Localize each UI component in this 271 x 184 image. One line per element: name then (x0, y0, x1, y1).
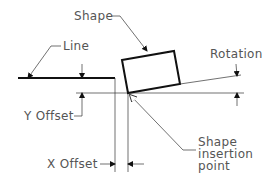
rotation-arrow-top (236, 64, 237, 76)
y-offset-leader (74, 93, 82, 116)
diagram-canvas: Shape Line Y Offset Rotation Shape inser… (0, 0, 271, 184)
shape-leader (111, 16, 147, 51)
y-offset-label: Y Offset (23, 109, 74, 123)
shape-rectangle (122, 51, 180, 93)
insertion-point-leader (130, 95, 196, 150)
line-leader (28, 46, 61, 78)
shape-label: Shape (74, 9, 113, 23)
x-offset-label: X Offset (47, 157, 98, 171)
rotation-label: Rotation (210, 47, 263, 61)
line-label: Line (63, 39, 89, 53)
insertion-label-line3: point (198, 159, 230, 173)
rotation-line (180, 75, 241, 84)
shape-insertion-diagram: Shape Line Y Offset Rotation Shape inser… (0, 0, 271, 184)
